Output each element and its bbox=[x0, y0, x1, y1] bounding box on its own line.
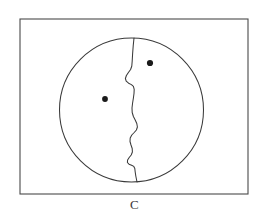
figure-caption: C bbox=[0, 197, 269, 213]
left-region-point bbox=[102, 96, 108, 102]
boundary-circle bbox=[60, 38, 204, 182]
figure-container: C bbox=[0, 0, 269, 222]
right-region-point bbox=[147, 60, 153, 66]
figure-diagram bbox=[0, 0, 269, 222]
